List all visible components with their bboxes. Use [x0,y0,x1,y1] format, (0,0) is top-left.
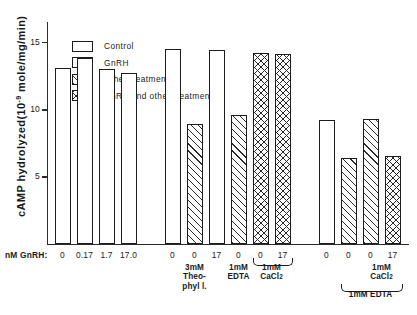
bar [253,53,269,244]
annotation-line: 1mM [361,263,403,272]
y-tick-label-5: 5 [18,171,40,181]
group-annotation-theophyll: 3mMTheo-phyl l. [172,263,218,291]
y-tick-label-15: 15 [18,37,40,47]
bar [385,156,401,243]
y-axis-title: cAMP hydrolyzed(10-9 mole/mg/min) [15,1,28,231]
plot-area [47,22,409,244]
annotation-brace-edta2 [341,284,403,292]
bar [275,54,291,243]
bar [121,73,137,244]
bar [319,120,335,244]
annotation-line: 3mM [172,263,218,272]
bar [341,158,357,244]
y-tick-label-10: 10 [18,104,40,114]
bar [99,69,115,244]
bar [209,50,225,243]
bar [77,58,93,243]
chart-figure: cAMP hydrolyzed(10-9 mole/mg/min) 51015 … [0,0,417,315]
bar-series [47,22,409,244]
group-annotation-cacl2b: 1mMCaCl2 [361,263,403,282]
annotation-line: Theo- [172,272,218,281]
bar [165,49,181,244]
annotation-line: CaCl2 [251,272,293,281]
annotation-brace-cacl2a [253,258,293,266]
bar [231,115,247,244]
x-tick-label: 17 [378,250,408,260]
bar [55,68,71,244]
x-axis-title: nM GnRH: [5,250,48,260]
bar [187,124,203,244]
annotation-line: phyl l. [172,282,218,291]
annotation-line: CaCl2 [361,272,403,281]
bar [363,119,379,244]
x-tick-label: 17.0 [114,250,144,260]
